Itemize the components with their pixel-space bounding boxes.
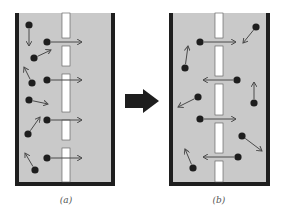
membrane-segment (62, 13, 70, 38)
particle (234, 153, 241, 160)
particle (181, 64, 188, 71)
transition-arrow-icon (125, 89, 159, 113)
particle (238, 132, 245, 139)
particle (43, 154, 50, 161)
diffusion-diagram (0, 0, 282, 218)
membrane-segment (215, 84, 223, 115)
particle (196, 38, 203, 45)
particle (43, 76, 50, 83)
particle (252, 23, 259, 30)
particle (196, 115, 203, 122)
panel-a (15, 13, 115, 186)
membrane-segment (62, 46, 70, 66)
particle (24, 130, 31, 137)
particle (25, 21, 32, 28)
membrane-segment (62, 148, 70, 182)
particle (43, 116, 50, 123)
panel-a-label: (a) (46, 195, 86, 205)
membrane-segment (62, 120, 70, 140)
panel-b-label: (b) (199, 195, 239, 205)
particle (194, 93, 201, 100)
membrane-segment (215, 123, 223, 153)
particle (30, 54, 37, 61)
particle (250, 99, 257, 106)
membrane-segment (215, 46, 223, 76)
particle (25, 96, 32, 103)
particle (28, 79, 35, 86)
particle (233, 76, 240, 83)
panel-b (169, 13, 270, 186)
particle (189, 164, 196, 171)
membrane-segment (215, 161, 223, 182)
membrane-segment (215, 13, 223, 38)
particle (43, 38, 50, 45)
particle (31, 166, 38, 173)
